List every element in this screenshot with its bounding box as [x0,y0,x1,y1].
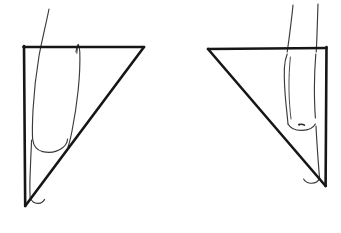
figure-canvas [0,0,341,233]
right-triangle-top-edge [208,48,327,49]
right-triangle-vertical-edge [326,47,327,186]
foot-triangle-drawing [0,0,341,233]
right-malleolus-dot [298,124,300,126]
left-triangle-vertical-edge [24,46,25,206]
